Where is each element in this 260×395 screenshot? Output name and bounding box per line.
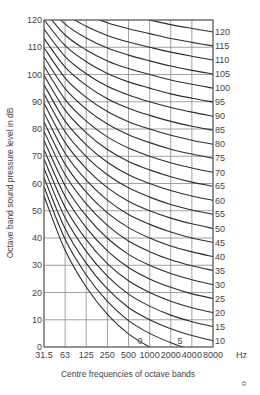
- x-tick-label: 63: [60, 350, 70, 360]
- y-tick-label: 10: [32, 315, 42, 325]
- y-tick-label: 100: [27, 70, 42, 80]
- curve-label-40: 40: [215, 252, 225, 262]
- x-tick-label: 4000: [182, 350, 202, 360]
- y-tick-label: 90: [32, 97, 42, 107]
- curve-label-30: 30: [215, 280, 225, 290]
- x-axis-unit: Hz: [236, 350, 247, 360]
- curve-label-50: 50: [215, 224, 225, 234]
- x-tick-label: 2000: [161, 350, 181, 360]
- curve-label-45: 45: [215, 238, 225, 248]
- x-axis-ticks: 31.5631252505001000200040008000: [35, 350, 223, 360]
- x-tick-label: 500: [121, 350, 136, 360]
- curve-label-35: 35: [215, 266, 225, 276]
- y-tick-label: 20: [32, 288, 42, 298]
- curve-label-115: 115: [215, 41, 229, 51]
- curve-label-70: 70: [215, 168, 225, 178]
- y-tick-label: 30: [32, 260, 42, 270]
- curve-label-110: 110: [215, 55, 229, 65]
- x-tick-label: 125: [79, 350, 94, 360]
- y-tick-label: 60: [32, 179, 42, 189]
- curve-label-90: 90: [215, 111, 225, 121]
- curve-label-5: 5: [177, 336, 182, 346]
- nr-curves-chart: 0102030405060708090100110120 31.56312525…: [0, 0, 260, 395]
- y-axis-label: Octave band sound pressure level in dB: [5, 107, 15, 258]
- y-tick-label: 110: [28, 42, 42, 52]
- corner-mark: ℴ: [240, 381, 252, 386]
- x-axis-label: Centre frequencies of octave bands: [61, 369, 195, 379]
- curve-label-60: 60: [215, 196, 225, 206]
- y-tick-label: 80: [32, 124, 42, 134]
- curve-label-100: 100: [215, 83, 230, 93]
- x-tick-label: 1000: [140, 350, 160, 360]
- y-axis-ticks: 0102030405060708090100110120: [27, 15, 42, 352]
- y-tick-label: 40: [32, 233, 42, 243]
- x-tick-label: 250: [100, 350, 115, 360]
- curve-label-10: 10: [215, 336, 225, 346]
- y-tick-label: 120: [27, 15, 42, 25]
- curve-label-105: 105: [215, 69, 230, 79]
- curve-label-65: 65: [215, 181, 225, 191]
- curve-label-120: 120: [215, 27, 230, 37]
- curve-label-20: 20: [215, 308, 225, 318]
- curve-label-15: 15: [215, 322, 225, 332]
- curve-labels-right: 1201151101051009590858075706560555045403…: [215, 27, 230, 346]
- curve-label-0: 0: [137, 336, 142, 346]
- curve-label-75: 75: [215, 153, 225, 163]
- curve-label-25: 25: [215, 294, 225, 304]
- curve-label-85: 85: [215, 125, 225, 135]
- y-tick-label: 50: [32, 206, 42, 216]
- curve-label-55: 55: [215, 209, 225, 219]
- x-tick-label: 31.5: [35, 350, 53, 360]
- x-tick-label: 8000: [203, 350, 223, 360]
- y-tick-label: 70: [32, 151, 42, 161]
- curve-label-80: 80: [215, 139, 225, 149]
- curve-label-95: 95: [215, 97, 225, 107]
